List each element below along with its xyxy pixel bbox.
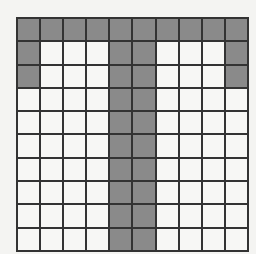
grid-cell-filled [203,19,226,42]
grid-cell-filled [133,19,156,42]
grid-cell-empty [180,89,203,112]
grid-cell-empty [157,66,180,89]
grid-cell-empty [203,42,226,65]
grid-cell-empty [226,135,249,158]
grid-cell-empty [41,159,64,182]
grid-cell-empty [64,182,87,205]
grid-cell-filled [110,159,133,182]
grid-cell-filled [226,42,249,65]
grid-cell-filled [110,89,133,112]
grid-cell-empty [41,112,64,135]
grid-cell-empty [64,159,87,182]
grid-cell-empty [157,229,180,252]
grid-cell-empty [180,42,203,65]
grid-cell-filled [180,19,203,42]
grid-cell-filled [110,42,133,65]
grid-cell-empty [87,205,110,228]
grid-cell-empty [157,135,180,158]
grid-cell-empty [157,42,180,65]
grid-cell-filled [133,66,156,89]
grid-cell-empty [180,205,203,228]
grid-cell-empty [203,229,226,252]
grid-cell-empty [18,229,41,252]
grid-cell-filled [133,182,156,205]
grid-cell-filled [18,19,41,42]
grid-cell-empty [203,182,226,205]
grid-cell-filled [226,19,249,42]
grid-cell-filled [110,19,133,42]
grid-cell-empty [41,42,64,65]
grid-cell-empty [226,229,249,252]
grid-cell-filled [226,66,249,89]
grid-cell-empty [18,135,41,158]
grid-cell-empty [18,112,41,135]
grid-cell-filled [87,19,110,42]
grid-cell-empty [226,89,249,112]
grid-cell-empty [203,159,226,182]
grid-cell-filled [133,112,156,135]
grid-cell-filled [110,205,133,228]
grid-cell-filled [133,229,156,252]
grid-cell-empty [87,89,110,112]
grid-cell-empty [18,89,41,112]
grid-cell-filled [133,42,156,65]
grid-cell-empty [64,205,87,228]
grid-cell-empty [87,159,110,182]
grid-cell-empty [157,182,180,205]
grid-cell-empty [180,159,203,182]
grid-cell-empty [64,229,87,252]
grid-cell-empty [180,229,203,252]
grid-cell-empty [157,89,180,112]
grid-cell-empty [157,159,180,182]
grid-cell-filled [110,112,133,135]
grid-cell-empty [87,182,110,205]
grid-cell-empty [203,205,226,228]
grid-cell-empty [203,89,226,112]
grid-cell-filled [133,205,156,228]
grid-cell-empty [157,112,180,135]
grid-cell-filled [41,19,64,42]
grid-cell-filled [110,66,133,89]
grid-cell-filled [110,135,133,158]
grid-cell-empty [41,89,64,112]
grid-cell-filled [18,66,41,89]
grid-cell-filled [110,182,133,205]
grid-cell-empty [18,159,41,182]
pixel-grid-letter-t [16,17,249,252]
grid-cell-filled [18,42,41,65]
grid-cell-empty [41,135,64,158]
grid-cell-empty [41,182,64,205]
grid-cell-empty [64,66,87,89]
grid-cell-empty [87,229,110,252]
grid-cell-empty [203,66,226,89]
grid-cell-empty [203,135,226,158]
grid-cell-filled [64,19,87,42]
grid-cell-empty [203,112,226,135]
grid-cell-empty [180,135,203,158]
grid-cell-empty [64,112,87,135]
grid-cell-empty [226,182,249,205]
grid-cell-empty [64,135,87,158]
grid-cell-filled [133,135,156,158]
grid-cell-filled [133,159,156,182]
grid-cell-empty [180,182,203,205]
grid-cell-empty [226,159,249,182]
grid-cell-empty [87,42,110,65]
grid-cell-empty [41,205,64,228]
grid-cell-empty [41,66,64,89]
grid-cell-filled [133,89,156,112]
grid-cell-empty [64,89,87,112]
grid-cell-empty [180,66,203,89]
grid-cell-filled [110,229,133,252]
grid-cell-empty [226,205,249,228]
grid-cell-empty [180,112,203,135]
grid-cell-empty [87,135,110,158]
grid-cell-empty [41,229,64,252]
grid-cell-empty [18,205,41,228]
grid-cell-empty [157,205,180,228]
grid-cell-empty [226,112,249,135]
grid-cell-empty [87,112,110,135]
grid-cell-empty [87,66,110,89]
grid-cell-empty [64,42,87,65]
grid-cell-empty [18,182,41,205]
